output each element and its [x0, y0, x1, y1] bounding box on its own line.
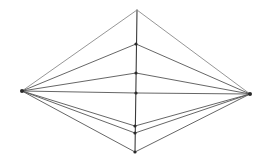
- diagram-edges: [22, 10, 250, 152]
- perspective-diagram: [0, 0, 273, 168]
- point-p6: [133, 131, 136, 134]
- vanishing-point-right: [248, 92, 252, 96]
- line-left-to-bottom: [22, 91, 135, 152]
- vanishing-point-left: [20, 89, 24, 93]
- line-p3-to-right: [136, 73, 250, 94]
- point-p5: [133, 124, 136, 127]
- line-p6-to-right: [135, 94, 250, 133]
- point-bottom: [133, 150, 136, 153]
- point-center: [134, 91, 137, 94]
- point-p2: [134, 42, 137, 45]
- line-bottom-to-right: [135, 94, 250, 152]
- vertical-line: [135, 10, 137, 152]
- line-left-to-p3: [22, 73, 136, 91]
- line-left-to-center: [22, 91, 136, 93]
- line-p5-to-right: [135, 94, 250, 126]
- point-p3: [134, 71, 137, 74]
- line-center-to-right: [136, 93, 250, 94]
- line-left-to-p6: [22, 91, 135, 133]
- line-left-to-p5: [22, 91, 135, 126]
